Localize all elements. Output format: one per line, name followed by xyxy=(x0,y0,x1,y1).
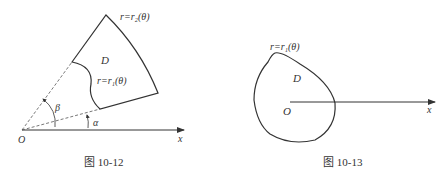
alpha-label: α xyxy=(93,117,99,128)
beta-label: β xyxy=(54,102,60,113)
figure-caption: 图 10-13 xyxy=(323,156,363,168)
curve-label: r=r₁(θ) xyxy=(270,41,300,53)
inner-curve-label: r=r₁(θ) xyxy=(97,75,127,87)
beta-arc xyxy=(43,99,55,127)
figure-caption: 图 10-12 xyxy=(84,156,123,168)
alpha-arc xyxy=(87,115,88,128)
closed-curve xyxy=(254,53,335,142)
x-axis-label: x xyxy=(426,104,432,115)
figure-10-13: r=r₁(θ) D O x 图 10-13 xyxy=(254,41,435,168)
origin-label: O xyxy=(283,105,291,117)
region-boundary xyxy=(72,15,158,109)
region-label: D xyxy=(100,54,109,66)
outer-curve-label: r=r₂(θ) xyxy=(120,11,150,23)
diagram-canvas: r=r₂(θ) r=r₁(θ) D β α O x 图 10-12 r=r₁(θ… xyxy=(0,0,448,174)
figure-10-12: r=r₂(θ) r=r₁(θ) D β α O x 图 10-12 xyxy=(18,11,184,168)
region-label: D xyxy=(292,72,301,84)
origin-label: O xyxy=(18,134,25,145)
ray-beta-dashed xyxy=(22,62,72,130)
x-axis-label: x xyxy=(177,133,183,144)
